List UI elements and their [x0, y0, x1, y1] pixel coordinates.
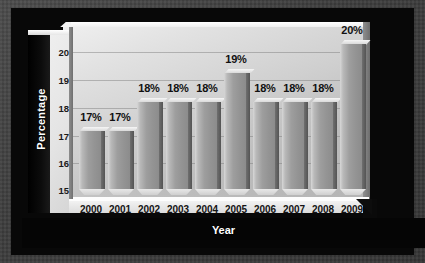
bar-2006[interactable] [253, 102, 279, 189]
y-tick-label: 16 [47, 158, 69, 169]
bar-side-face [333, 102, 337, 189]
x-tick-label-2009: 2009 [335, 204, 369, 215]
chart-screenshot: Percentage 20 19 18 17 16 15 17%200017%2… [0, 0, 425, 263]
bar-2000[interactable] [79, 131, 105, 189]
bar-side-face [217, 102, 221, 189]
gridline-20 [63, 52, 363, 53]
bar-value-label: 20% [332, 24, 372, 36]
chart-frame: Percentage 20 19 18 17 16 15 17%200017%2… [11, 8, 414, 255]
bar-side-face [130, 131, 134, 189]
bar-front-face [79, 131, 101, 189]
bar-2002[interactable] [137, 102, 163, 189]
bar-side-face [159, 102, 163, 189]
bar-2009[interactable] [340, 44, 366, 189]
bar-front-face [224, 73, 246, 189]
bar-value-label: 18% [303, 82, 343, 94]
bar-side-face [304, 102, 308, 189]
bar-2001[interactable] [108, 131, 134, 189]
bar-2007[interactable] [282, 102, 308, 189]
bar-front-face [108, 131, 130, 189]
plot-floor-front-edge [50, 197, 369, 201]
y-axis-title: Percentage [35, 44, 47, 194]
y-tick-label: 19 [47, 75, 69, 86]
y-tick-label: 18 [47, 103, 69, 114]
bar-front-face [253, 102, 275, 189]
bar-value-label: 18% [187, 82, 227, 94]
bar-side-face [188, 102, 192, 189]
gridline-19 [63, 80, 363, 81]
bar-2003[interactable] [166, 102, 192, 189]
bar-front-face [195, 102, 217, 189]
bar-front-face [137, 102, 159, 189]
y-tick-label: 17 [47, 131, 69, 142]
bar-front-face [340, 44, 362, 189]
y-tick-label: 20 [47, 47, 69, 58]
bar-front-face [282, 102, 304, 189]
bar-front-face [311, 102, 333, 189]
bar-value-label: 19% [216, 53, 256, 65]
bar-2008[interactable] [311, 102, 337, 189]
bar-2004[interactable] [195, 102, 221, 189]
y-tick-label: 15 [47, 185, 69, 196]
bar-value-label: 17% [100, 111, 140, 123]
bar-front-face [166, 102, 188, 189]
bar-side-face [275, 102, 279, 189]
bar-side-face [362, 44, 366, 189]
x-axis-title: Year [22, 224, 425, 236]
bar-side-face [101, 131, 105, 189]
